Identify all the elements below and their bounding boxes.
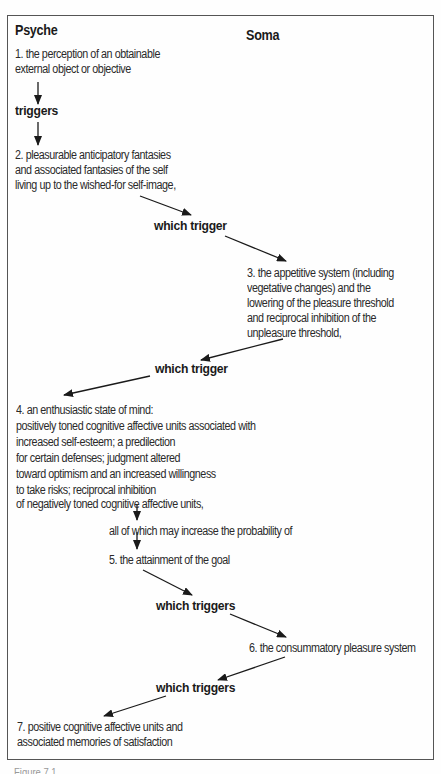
arrow-diagonal-icon xyxy=(201,339,283,360)
arrow-diagonal-icon xyxy=(143,570,192,595)
step-line: toward optimism and an increased willing… xyxy=(16,467,216,482)
step-line: positively toned cognitive affective uni… xyxy=(16,419,256,434)
step-line: and reciprocal inhibition of the xyxy=(247,311,376,326)
step-line: of negatively toned cognitive affective … xyxy=(16,497,203,512)
connector-triggers: triggers xyxy=(15,103,58,118)
connector-which-trigger: which trigger xyxy=(154,218,227,233)
step-line: 7. positive cognitive affective units an… xyxy=(17,720,183,735)
step-line: lowering of the pleasure threshold xyxy=(247,296,394,311)
arrow-diagonal-icon xyxy=(225,236,286,261)
flow-arrows xyxy=(0,0,441,774)
arrow-diagonal-icon xyxy=(104,696,166,716)
step-line: 1. the perception of an obtainable xyxy=(15,47,160,62)
step-line: 2. pleasurable anticipatory fantasies xyxy=(15,148,171,163)
connector-which-trigger: which trigger xyxy=(155,361,228,376)
column-header-soma: Soma xyxy=(246,27,279,43)
connector-which-triggers: which triggers xyxy=(156,598,235,613)
step-line: external object or objective xyxy=(15,62,131,77)
arrow-diagonal-icon xyxy=(64,376,150,395)
step-line: associated memories of satisfaction xyxy=(17,735,172,750)
step-line: 4. an enthusiastic state of mind: xyxy=(16,403,153,418)
arrow-diagonal-icon xyxy=(140,196,191,215)
connector-probability: all of which may increase the probabilit… xyxy=(109,524,292,539)
arrow-diagonal-icon xyxy=(230,614,286,637)
step-line: 5. the attainment of the goal xyxy=(109,553,230,568)
step-line: vegetative changes) and the xyxy=(247,281,370,296)
step-line: 3. the appetitive system (including xyxy=(247,266,394,281)
step-line: increased self-esteem; a predilection xyxy=(16,435,175,450)
connector-which-triggers: which triggers xyxy=(156,680,235,695)
arrow-diagonal-icon xyxy=(218,657,285,680)
step-line: to take risks; reciprocal inhibition xyxy=(16,483,156,498)
step-line: living up to the wished-for self-image, xyxy=(15,178,176,193)
step-line: for certain defenses; judgment altered xyxy=(16,451,180,466)
column-header-psyche: Psyche xyxy=(15,22,58,38)
step-line: unpleasure threshold, xyxy=(247,326,341,341)
figure-caption: Figure 7.1 xyxy=(14,766,57,774)
step-line: and associated fantasies of the self xyxy=(15,163,167,178)
step-line: 6. the consummatory pleasure system xyxy=(249,641,416,656)
